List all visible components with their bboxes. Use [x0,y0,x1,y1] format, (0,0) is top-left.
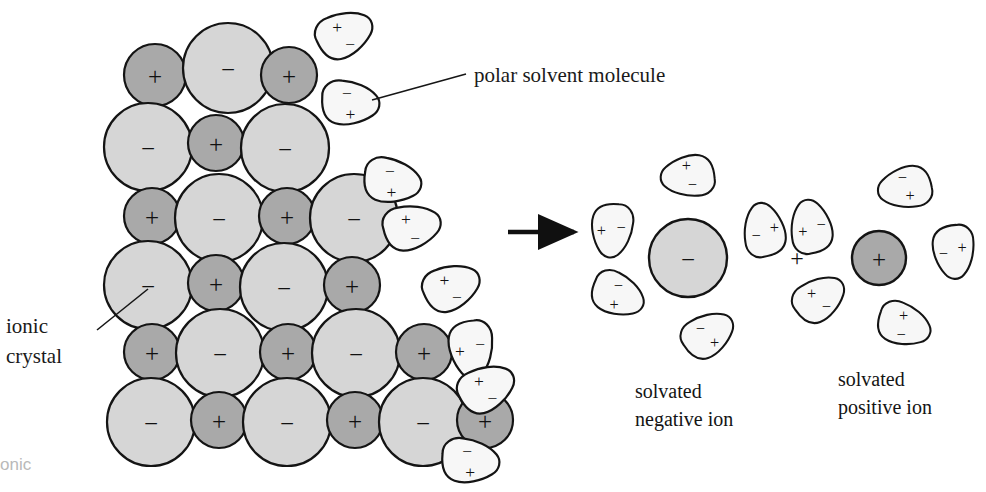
ion-charge-label: + [348,408,362,435]
ion-charge-label: − [141,135,155,162]
solvent-charge-bottom: + [455,341,465,361]
ion-charge-label: + [417,340,431,367]
figure-canvas: +−+−+−+−+−−+−++−+−+−+−+−+ +−−+−++−+−−++−… [0,0,986,492]
crystal-ion-cation: + [327,392,383,448]
ion-charge-label: − [416,410,430,437]
crystal-ion-anion: − [104,241,192,329]
crystal-ion-cation: + [396,324,452,380]
crystal-ion-cation: + [124,44,186,106]
crystal-ion-anion: − [176,309,264,397]
plus-separator-glyph: + [790,245,804,271]
crystal-ion-anion: − [183,23,273,113]
solvent-charge-bottom: + [770,218,779,237]
watermark-text: onic [0,455,32,474]
solvent-charge-top: + [958,238,967,257]
ion-charge-label: − [349,341,363,368]
solvent-charge-top: + [332,17,342,37]
ion-charge-label: − [141,273,155,300]
solvent-charge-top: + [807,284,816,303]
solvent-charge-top: + [905,186,914,205]
solvent-charge-bottom: − [897,325,906,344]
solvent-charge-bottom: − [488,388,498,408]
solvent-charge-top: − [688,175,697,194]
solvent-charge-top: − [475,334,485,354]
solvated-negative-caption-line1: solvated [635,380,702,402]
ion-charge-label: + [209,131,223,158]
ion-charge-label: − [144,410,158,437]
solvent-charge-bottom: + [682,156,691,175]
solvent-charge-bottom: + [610,295,619,314]
crystal-ion-anion: − [104,103,192,191]
solvent-charge-top: − [616,218,625,237]
solvent-charge-bottom: − [410,228,420,248]
ion-charge-label: + [209,271,223,298]
ion-charge-label: + [145,204,159,231]
solvent-charge-bottom: − [822,297,831,316]
crystal-ion-cation: + [124,324,180,380]
crystal-ion-anion: − [175,174,263,262]
solvent-charge-bottom: + [710,333,719,352]
solvated-negative-caption-line2: negative ion [635,408,733,431]
core-ion-charge-label: − [681,246,695,273]
solvent-charge-top: − [696,319,705,338]
crystal-ion-cation: + [260,324,316,380]
solvent-charge-bottom: − [817,215,826,234]
crystal-ion-cation: + [324,257,380,313]
solvent-charge-top: − [751,226,760,245]
solvent-charge-top: − [385,161,395,181]
solvated-positive-caption-line2: positive ion [838,396,932,419]
dissolution-diagram: +−+−+−+−+−−+−++−+−+−+−+−+ +−−+−++−+−−++−… [0,0,986,492]
ion-charge-label: + [345,273,359,300]
ion-charge-label: − [213,341,227,368]
crystal-ion-anion: − [240,243,328,331]
crystal-ion-cation: + [259,188,315,244]
solvated-positive-ion-core: + [852,231,906,285]
crystal-ion-cation: + [188,115,244,171]
solvent-charge-bottom: − [345,34,355,54]
core-ion-charge-label: + [872,246,886,273]
ion-charge-label: + [282,63,296,90]
ionic-crystal-label-line1: ionic [6,314,48,338]
polar-solvent-label: polar solvent molecule [474,63,665,87]
solvent-charge-top: − [462,441,472,461]
solvent-charge-top: + [798,222,807,241]
crystal-ion-cation: + [261,47,317,103]
solvent-charge-bottom: − [898,168,907,187]
crystal-ion-anion: − [107,378,195,466]
solvent-charge-bottom: + [345,104,355,124]
crystal-ion-cation: + [188,255,244,311]
ion-charge-label: + [148,63,162,90]
ion-charge-label: − [212,206,226,233]
ion-charge-label: − [347,206,361,233]
ion-charge-label: − [278,136,292,163]
solvent-charge-bottom: − [452,287,462,307]
solvent-charge-top: + [899,306,908,325]
ion-charge-label: − [277,275,291,302]
solvent-charge-bottom: + [386,182,396,202]
solvent-charge-top: + [474,371,484,391]
ion-charge-label: + [280,204,294,231]
crystal-ion-cation: + [191,392,247,448]
ionic-crystal-label-line2: crystal [6,344,62,368]
solvent-charge-bottom: + [465,462,475,482]
solvent-charge-bottom: + [597,221,606,240]
ion-charge-label: + [281,340,295,367]
crystal-ion-anion: − [243,378,331,466]
solvent-charge-top: − [614,276,623,295]
ion-charge-label: − [280,410,294,437]
solvent-charge-top: + [440,270,450,290]
solvated-negative-ion-core: − [649,219,727,297]
crystal-ion-cation: + [124,188,180,244]
solvent-charge-bottom: − [939,244,948,263]
ion-charge-label: − [221,56,235,83]
crystal-ion-anion: − [241,104,329,192]
ion-charge-label: + [145,340,159,367]
solvated-positive-caption-line1: solvated [838,368,905,390]
solvent-charge-top: − [342,83,352,103]
ion-charge-label: + [212,408,226,435]
solvent-charge-top: + [401,209,411,229]
crystal-ion-anion: − [312,309,400,397]
